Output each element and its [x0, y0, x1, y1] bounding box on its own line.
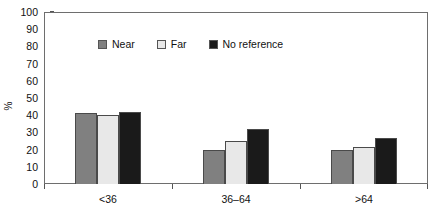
x-axis-tick-mark [44, 184, 45, 189]
bar[interactable] [97, 115, 119, 184]
x-axis-tick-mark [172, 184, 173, 189]
x-axis-tick-label: <36 [99, 192, 117, 206]
y-axis-tick-label: 30 [10, 126, 38, 138]
bar[interactable] [75, 113, 97, 184]
bar[interactable] [375, 138, 397, 184]
y-axis-tick-label: 0 [10, 178, 38, 190]
legend-swatch-icon [157, 40, 166, 49]
y-axis-tick-label: 20 [10, 144, 38, 156]
legend-swatch-icon [209, 40, 218, 49]
legend-entry[interactable]: No reference [209, 38, 284, 50]
y-axis-tick-label: 60 [10, 75, 38, 87]
legend-label: Near [112, 38, 135, 50]
y-axis-tick-label: 90 [10, 23, 38, 35]
chart-legend: NearFarNo reference [98, 36, 283, 52]
y-axis-tick-label: 80 [10, 40, 38, 52]
legend-label: Far [171, 38, 187, 50]
bar[interactable] [331, 150, 353, 184]
bar[interactable] [247, 129, 269, 184]
bar[interactable] [119, 112, 141, 184]
x-axis-tick-marks [44, 184, 428, 189]
legend-entry[interactable]: Near [98, 38, 135, 50]
y-axis-tick-label: 40 [10, 109, 38, 121]
x-axis-tick-mark [300, 184, 301, 189]
x-axis-tick-label: 36–64 [221, 192, 250, 206]
legend-entry[interactable]: Far [157, 38, 187, 50]
y-axis-tick-label: 100 [10, 6, 38, 18]
bar[interactable] [203, 150, 225, 184]
legend-label: No reference [223, 38, 284, 50]
y-axis-tick-label: 50 [10, 92, 38, 104]
bar[interactable] [353, 147, 375, 184]
y-axis-tick-label: 10 [10, 161, 38, 173]
x-axis-tick-label: >64 [355, 192, 373, 206]
legend-swatch-icon [98, 40, 107, 49]
y-axis-tick-labels: 1009080706050403020100 [10, 12, 38, 184]
x-axis-tick-mark [427, 184, 428, 189]
y-axis-tick-label: 70 [10, 58, 38, 70]
x-axis-tick-labels: <3636–64>64 [44, 192, 428, 208]
bar[interactable] [225, 141, 247, 184]
bar-chart: % 1009080706050403020100 NearFarNo refer… [0, 0, 440, 223]
